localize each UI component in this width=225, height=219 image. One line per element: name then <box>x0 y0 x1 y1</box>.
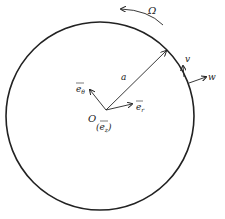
origin-label: O <box>88 113 96 124</box>
rotation-arrow-icon <box>121 9 163 25</box>
v-label: v <box>185 54 190 64</box>
e-theta-label: eθ <box>76 84 85 95</box>
radius-label: a <box>121 72 126 82</box>
v-arrow <box>183 66 184 77</box>
w-arrow <box>189 77 206 83</box>
e-r-arrow <box>106 104 132 110</box>
w-label: w <box>208 72 216 82</box>
rotating-disk-diagram: Ω a eθ er O (ez) v w <box>0 0 225 219</box>
e-r-label: er <box>136 102 145 113</box>
omega-label: Ω <box>147 5 156 16</box>
e-z-label: (ez) <box>96 122 112 133</box>
e-theta-arrow <box>90 90 106 110</box>
disk-circle <box>6 22 194 210</box>
